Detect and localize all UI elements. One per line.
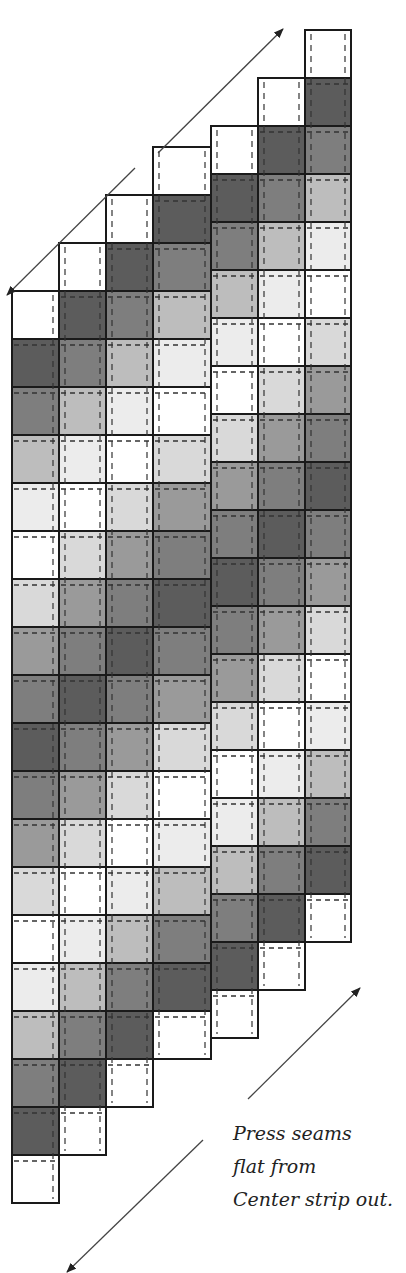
strip-columns (12, 30, 351, 1203)
strip-column (59, 243, 106, 1155)
strip-column (305, 30, 351, 942)
quilt-square (106, 771, 153, 819)
quilt-square (258, 510, 305, 558)
quilt-square (12, 339, 59, 387)
quilt-square (258, 222, 305, 270)
quilt-square (153, 147, 211, 195)
quilt-square (211, 606, 258, 654)
quilt-square (153, 243, 211, 291)
quilt-square (153, 435, 211, 483)
quilt-square (153, 195, 211, 243)
quilt-square (106, 819, 153, 867)
quilt-square (258, 174, 305, 222)
quilt-square (59, 915, 106, 963)
quilt-square (12, 1155, 59, 1203)
quilt-square (59, 387, 106, 435)
quilt-square (211, 318, 258, 366)
quilt-square (211, 270, 258, 318)
quilt-square (305, 750, 351, 798)
quilt-square (153, 627, 211, 675)
quilt-square (305, 78, 351, 126)
quilt-square (12, 915, 59, 963)
quilt-square (12, 675, 59, 723)
quilt-square (305, 798, 351, 846)
quilt-square (106, 579, 153, 627)
quilt-square (59, 819, 106, 867)
quilt-square (106, 243, 153, 291)
quilt-square (211, 222, 258, 270)
bottom-arrow-down-left-icon (67, 1140, 203, 1272)
quilt-square (305, 222, 351, 270)
quilt-square (305, 510, 351, 558)
quilt-square (59, 723, 106, 771)
quilt-square (258, 78, 305, 126)
quilt-square (211, 942, 258, 990)
quilt-square (153, 579, 211, 627)
caption-line-3: Center strip out. (233, 1183, 403, 1216)
strip-column (106, 195, 153, 1107)
quilt-square (258, 654, 305, 702)
quilt-square (12, 291, 59, 339)
quilt-square (211, 894, 258, 942)
strip-column (258, 78, 305, 990)
quilt-square (59, 579, 106, 627)
quilt-square (305, 606, 351, 654)
quilt-square (12, 1107, 59, 1155)
quilt-square (106, 675, 153, 723)
quilt-square (211, 702, 258, 750)
quilt-square (12, 963, 59, 1011)
quilt-square (211, 414, 258, 462)
quilt-square (211, 750, 258, 798)
quilt-square (59, 1011, 106, 1059)
quilt-square (106, 195, 153, 243)
pressing-instructions: Press seams flat from Center strip out. (233, 1117, 403, 1216)
quilt-square (153, 867, 211, 915)
quilt-square (59, 1059, 106, 1107)
strip-column (211, 126, 258, 1038)
quilt-square (59, 675, 106, 723)
quilt-square (59, 1107, 106, 1155)
quilt-square (106, 435, 153, 483)
quilt-square (106, 723, 153, 771)
quilt-square (106, 387, 153, 435)
quilt-square (305, 270, 351, 318)
quilt-square (305, 174, 351, 222)
quilt-square (258, 846, 305, 894)
quilt-square (153, 723, 211, 771)
quilt-square (305, 654, 351, 702)
quilt-square (258, 702, 305, 750)
quilt-square (106, 867, 153, 915)
quilt-square (12, 579, 59, 627)
quilt-square (153, 915, 211, 963)
quilt-square (211, 654, 258, 702)
quilt-square (153, 483, 211, 531)
quilt-square (106, 291, 153, 339)
quilt-square (258, 606, 305, 654)
quilt-square (12, 531, 59, 579)
quilt-square (153, 531, 211, 579)
quilt-square (106, 339, 153, 387)
quilt-square (59, 531, 106, 579)
quilt-square (305, 894, 351, 942)
quilt-square (12, 1011, 59, 1059)
quilt-square (258, 894, 305, 942)
quilt-square (211, 462, 258, 510)
quilt-square (59, 963, 106, 1011)
quilt-square (305, 414, 351, 462)
quilt-square (106, 1011, 153, 1059)
quilt-square (258, 942, 305, 990)
quilt-square (258, 126, 305, 174)
quilt-square (305, 558, 351, 606)
quilt-square (211, 558, 258, 606)
quilt-square (305, 366, 351, 414)
quilt-square (153, 291, 211, 339)
quilt-square (12, 387, 59, 435)
quilt-square (153, 675, 211, 723)
strip-column (12, 291, 59, 1203)
quilt-square (59, 339, 106, 387)
quilt-square (106, 531, 153, 579)
quilt-square (211, 990, 258, 1038)
quilt-square (12, 435, 59, 483)
quilt-square (258, 750, 305, 798)
quilt-square (258, 414, 305, 462)
